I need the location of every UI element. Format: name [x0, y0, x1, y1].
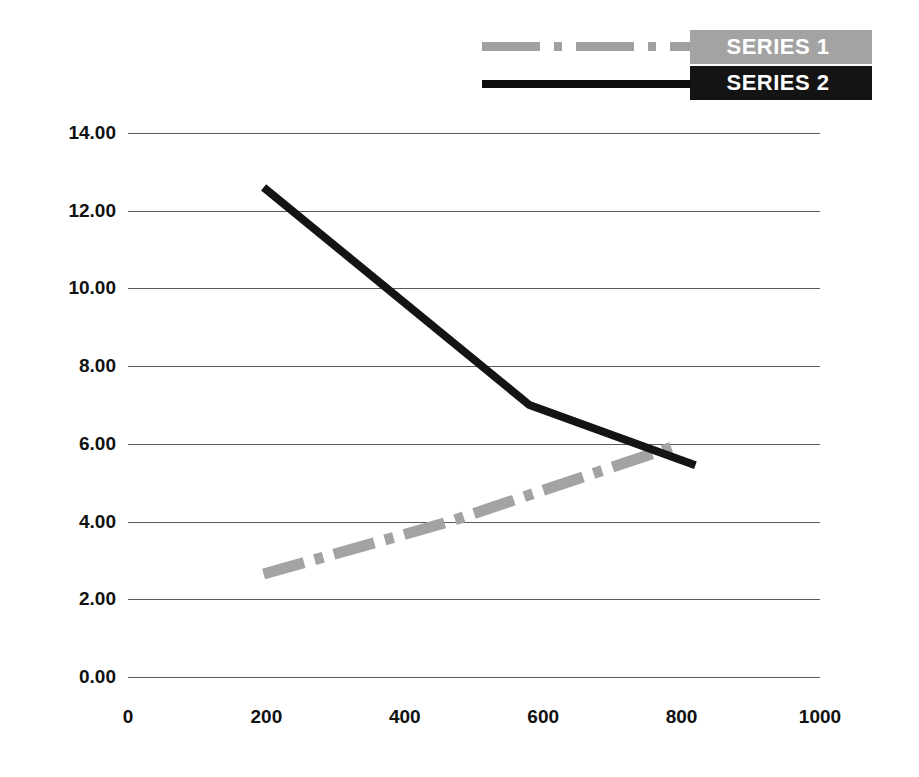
plot-area: [128, 133, 820, 677]
x-axis-tick-label: 200: [226, 706, 306, 728]
legend-label-series-2: SERIES 2: [690, 66, 872, 100]
y-axis-tick-label: 14.00: [18, 122, 116, 144]
gridline-y: [128, 366, 820, 367]
legend-label-series-1: SERIES 1: [690, 30, 872, 64]
gridline-y: [128, 522, 820, 523]
y-axis-tick-label: 8.00: [18, 355, 116, 377]
legend-item-series-2[interactable]: SERIES 2: [482, 66, 872, 100]
y-axis-tick-label: 0.00: [18, 666, 116, 688]
gridline-y: [128, 599, 820, 600]
y-axis-tick-label: 6.00: [18, 433, 116, 455]
x-axis-tick-label: 400: [365, 706, 445, 728]
chart-legend: SERIES 1 SERIES 2: [482, 30, 872, 102]
gridline-y: [128, 211, 820, 212]
gridline-y: [128, 444, 820, 445]
x-axis-tick-label: 600: [503, 706, 583, 728]
y-axis-tick-label: 4.00: [18, 511, 116, 533]
gridline-y: [128, 288, 820, 289]
x-axis-tick-label: 1000: [780, 706, 860, 728]
y-axis-tick-label: 10.00: [18, 277, 116, 299]
y-axis-tick-label: 12.00: [18, 200, 116, 222]
line-chart: SERIES 1 SERIES 2 14.00 12.00 10.00 8.00…: [0, 0, 919, 777]
gridline-y: [128, 677, 820, 678]
x-axis-tick-label: 800: [642, 706, 722, 728]
legend-item-series-1[interactable]: SERIES 1: [482, 30, 872, 64]
x-axis-tick-label: 0: [88, 706, 168, 728]
y-axis-tick-label: 2.00: [18, 588, 116, 610]
gridline-y: [128, 133, 820, 134]
